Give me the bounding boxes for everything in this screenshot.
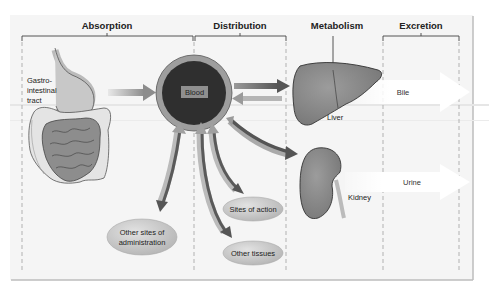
label-other-sites-line2: administration bbox=[119, 238, 166, 247]
label-gi-line3: tract bbox=[27, 96, 43, 105]
header-absorption: Absorption bbox=[82, 20, 133, 31]
label-urine: Urine bbox=[403, 178, 421, 187]
label-gi-line1: Gastro- bbox=[27, 76, 53, 85]
diagram-canvas: Absorption Distribution Metabolism Excre… bbox=[0, 0, 489, 296]
label-sites-of-action: Sites of action bbox=[229, 205, 276, 214]
label-other-sites-line1: Other sites of bbox=[120, 228, 166, 237]
label-other-tissues: Other tissues bbox=[231, 249, 275, 258]
header-distribution: Distribution bbox=[213, 20, 266, 31]
header-metabolism: Metabolism bbox=[311, 20, 363, 31]
adme-diagram: Absorption Distribution Metabolism Excre… bbox=[0, 0, 489, 296]
label-liver: Liver bbox=[327, 113, 344, 122]
label-blood: Blood bbox=[185, 88, 204, 97]
label-bile: Bile bbox=[397, 88, 410, 97]
node-other-sites bbox=[107, 219, 177, 255]
header-excretion: Excretion bbox=[399, 20, 442, 31]
label-gi-line2: intestinal bbox=[27, 86, 57, 95]
label-kidney: Kidney bbox=[348, 193, 371, 202]
